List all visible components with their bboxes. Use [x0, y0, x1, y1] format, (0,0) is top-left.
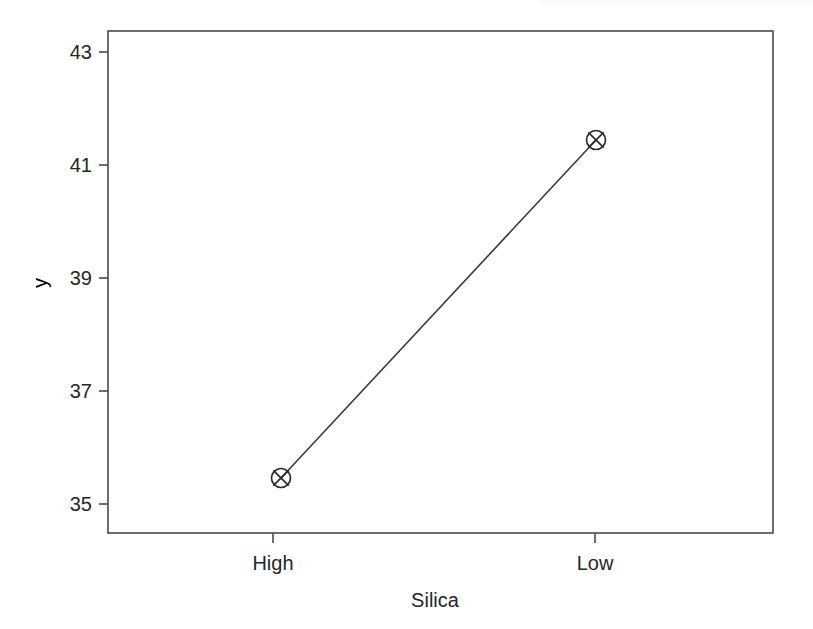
y-tick-label: 35 — [70, 493, 92, 515]
x-tick-label-low: Low — [577, 552, 614, 574]
chart-canvas: 35 37 39 41 43 y High Low Silica — [0, 0, 813, 629]
y-axis-tick-group — [99, 52, 108, 504]
y-axis-title: y — [29, 278, 51, 288]
plot-frame — [108, 31, 773, 533]
y-tick-label: 41 — [70, 154, 92, 176]
x-tick-label-high: High — [252, 552, 293, 574]
x-axis-tick-labels: High Low — [252, 552, 613, 574]
y-tick-label: 37 — [70, 380, 92, 402]
x-axis-tick-group — [273, 533, 595, 543]
y-tick-label: 39 — [70, 267, 92, 289]
y-tick-label: 43 — [70, 41, 92, 63]
interaction-plot-figure: 35 37 39 41 43 y High Low Silica — [0, 0, 813, 629]
y-axis-tick-labels: 35 37 39 41 43 — [70, 41, 92, 515]
x-axis-title: Silica — [411, 589, 460, 611]
